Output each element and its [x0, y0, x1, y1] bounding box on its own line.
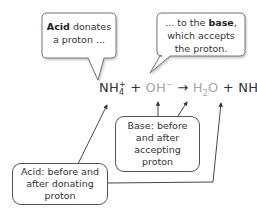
nh3-base: NH: [238, 80, 257, 95]
acid-bold-word: Acid: [47, 21, 70, 32]
acid-bubble-text: Acid donates a proton ...: [44, 20, 114, 46]
acid-label-text: Acid: before and after donating proton: [18, 166, 102, 202]
h2o-h: H: [193, 80, 203, 95]
plus-sign-2: +: [223, 80, 234, 95]
acid-label-box: Acid: before and after donating proton: [12, 163, 108, 205]
base-bubble-text: ... to the base, which accepts the proto…: [158, 16, 244, 55]
hydroxide: OH−: [146, 80, 173, 95]
base-label-box: Base: before and after accepting proton: [115, 116, 200, 172]
reaction-arrow: →: [177, 80, 188, 95]
water: H2O: [193, 80, 219, 95]
chemical-equation: NH+4 + OH− → H2O + NH3: [99, 80, 257, 98]
nh4-plus: NH+4: [99, 80, 126, 97]
oh-base: OH: [146, 80, 166, 95]
nh4-subscript: 4: [119, 89, 126, 97]
oh-charge: −: [166, 80, 173, 89]
base-bubble-prefix: ... to the: [165, 17, 208, 28]
base-label-text: Base: before and after accepting proton: [127, 120, 189, 168]
nh4-base: NH: [99, 80, 119, 95]
h2o-o: O: [208, 80, 218, 95]
ammonia: NH3: [238, 80, 257, 95]
base-bold-word: base: [208, 17, 233, 28]
plus-sign-1: +: [130, 80, 141, 95]
